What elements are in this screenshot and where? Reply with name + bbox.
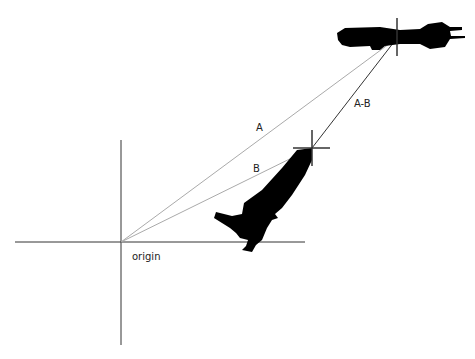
vector-a-minus-b-label: A-B — [354, 98, 371, 109]
origin-label: origin — [132, 251, 160, 262]
vector-a-label: A — [256, 122, 263, 133]
rocket-silhouette-icon — [214, 148, 312, 252]
spaceship-silhouette-icon — [337, 22, 465, 50]
vector-b-label: B — [253, 163, 260, 174]
vector-a-minus-b-line — [312, 38, 397, 148]
vector-diagram: A B A-B origin — [0, 0, 475, 359]
